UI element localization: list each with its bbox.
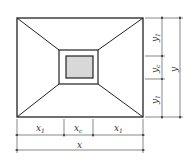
label-x1-right: x1 (114, 123, 123, 134)
column-rect (66, 56, 93, 78)
label-x-total: x (77, 140, 82, 150)
footing-plan-diagram: x1 xc x1 x y1 yc y1 y (0, 0, 195, 167)
label-xc: xc (74, 123, 83, 134)
label-y-total: y (169, 66, 179, 73)
label-yc: yc (150, 64, 161, 74)
label-y1-bottom: y1 (150, 95, 161, 105)
label-x1-left: x1 (36, 123, 45, 134)
label-y1-top: y1 (150, 33, 161, 43)
diagram-canvas: x1 xc x1 x y1 yc y1 y (0, 0, 195, 167)
